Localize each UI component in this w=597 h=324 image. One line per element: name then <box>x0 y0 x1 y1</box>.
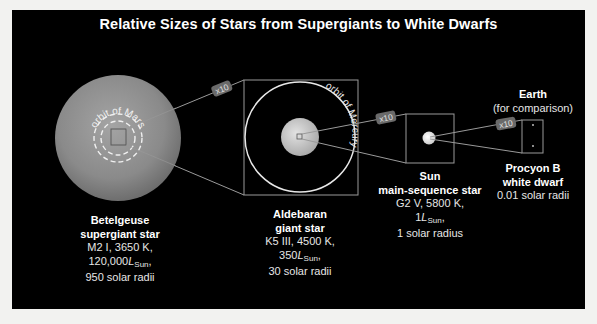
sun-luminosity: 1LSun, <box>370 211 490 228</box>
earth-dot <box>532 124 534 126</box>
sun-spectral: G2 V, 5800 K, <box>370 197 490 211</box>
betelgeuse-caption: Betelgeuse supergiant star M2 I, 3650 K,… <box>58 214 182 285</box>
earth-note: (for comparison) <box>488 102 578 116</box>
betelgeuse-luminosity: 120,000LSun, <box>58 255 182 272</box>
zoom-x10-tag-3: x10 <box>495 116 517 130</box>
earth-name: Earth <box>488 88 578 102</box>
aldebaran-caption: Aldebaran giant star K5 III, 4500 K, 350… <box>240 208 360 279</box>
aldebaran-radius: 30 solar radii <box>240 265 360 279</box>
sun-radius: 1 solar radius <box>370 227 490 241</box>
zoom-x10-tag-2: x10 <box>375 110 397 125</box>
aldebaran-type: giant star <box>240 222 360 236</box>
sun-type: main-sequence star <box>370 184 490 198</box>
sun-sphere <box>423 132 436 145</box>
betelgeuse-type: supergiant star <box>58 228 182 242</box>
betelgeuse-radius: 950 solar radii <box>58 271 182 285</box>
aldebaran-name: Aldebaran <box>240 208 360 222</box>
earth-caption: Earth (for comparison) <box>488 88 578 115</box>
sun-caption: Sun main-sequence star G2 V, 5800 K, 1LS… <box>370 170 490 241</box>
svg-text:x10: x10 <box>498 118 514 130</box>
aldebaran-luminosity: 350LSun, <box>240 249 360 266</box>
betelgeuse-sphere <box>55 75 181 201</box>
procyon-name: Procyon B <box>488 162 578 176</box>
sun-name: Sun <box>370 170 490 184</box>
procyon-b-dot <box>532 145 534 147</box>
procyon-caption: Procyon B white dwarf 0.01 solar radii <box>488 162 578 203</box>
zoom-x10-tag-1: x10 <box>210 80 233 98</box>
betelgeuse-name: Betelgeuse <box>58 214 182 228</box>
procyon-type: white dwarf <box>488 176 578 190</box>
procyon-radius: 0.01 solar radii <box>488 189 578 203</box>
aldebaran-spectral: K5 III, 4500 K, <box>240 235 360 249</box>
svg-text:x10: x10 <box>378 112 394 125</box>
aldebaran-sphere <box>281 118 319 156</box>
betelgeuse-spectral: M2 I, 3650 K, <box>58 241 182 255</box>
mercury-orbit-label: orbit of Mercury <box>324 80 361 149</box>
